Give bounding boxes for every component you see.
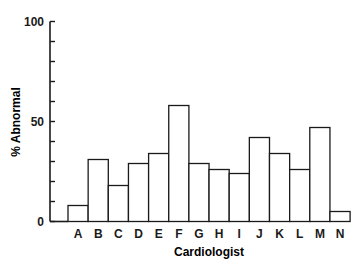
x-tick-label: F [175, 227, 182, 241]
bar-K [270, 154, 290, 222]
x-tick-label: A [74, 227, 83, 241]
x-tick-label: G [194, 227, 203, 241]
bar-D [128, 164, 148, 222]
x-tick-label: C [114, 227, 123, 241]
bar-chart: 050100 ABCDEFGHIJKLMN Cardiologist % Abn… [0, 0, 363, 269]
x-tick-label: L [296, 227, 303, 241]
bar-A [68, 206, 88, 222]
bar-I [229, 174, 249, 222]
x-tick-label: K [275, 227, 284, 241]
bar-B [88, 160, 108, 222]
x-tick-label: H [215, 227, 224, 241]
bar-M [310, 128, 330, 222]
bar-J [249, 138, 269, 222]
x-tick-label: D [134, 227, 143, 241]
bar-C [108, 186, 128, 222]
bar-N [330, 212, 350, 222]
x-tick-labels: ABCDEFGHIJKLMN [74, 227, 345, 241]
x-axis-label: Cardiologist [174, 245, 244, 259]
x-tick-label: I [238, 227, 241, 241]
y-tick-label: 0 [37, 215, 44, 229]
y-tick-label: 50 [31, 115, 45, 129]
y-axis-label: % Abnormal [9, 87, 23, 157]
bar-E [149, 154, 169, 222]
bar-F [169, 106, 189, 222]
bar-L [290, 170, 310, 222]
x-tick-label: B [94, 227, 103, 241]
bar-H [209, 170, 229, 222]
x-tick-label: E [155, 227, 163, 241]
bars [68, 106, 350, 222]
bar-G [189, 164, 209, 222]
x-tick-label: N [336, 227, 345, 241]
x-tick-label: J [256, 227, 263, 241]
y-axis: 050100 [24, 15, 68, 229]
y-tick-label: 100 [24, 15, 44, 29]
x-tick-label: M [315, 227, 325, 241]
